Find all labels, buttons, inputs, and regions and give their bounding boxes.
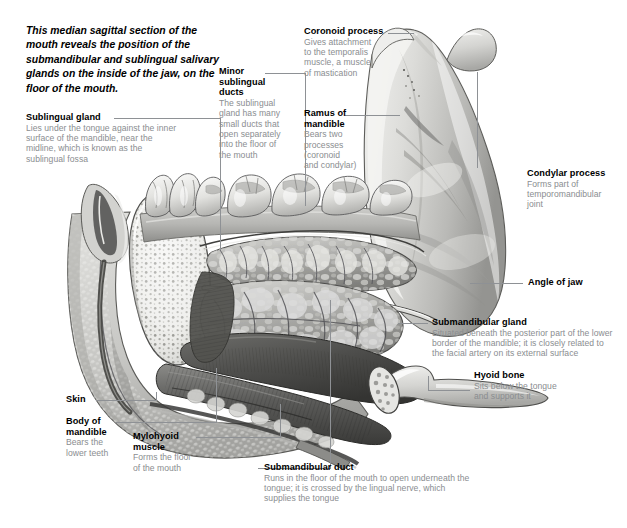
label-mylohyoid-muscle: Mylohyoid muscle Forms the floor of the … [133, 431, 205, 473]
label-heading-submandibular-gland: Submandibular gland [432, 317, 626, 328]
label-heading-hyoid-bone: Hyoid bone [474, 370, 614, 381]
label-heading-angle-of-jaw: Angle of jaw [528, 277, 624, 288]
label-body-minor-sublingual-ducts: The sublingual gland has many small duct… [219, 98, 287, 160]
label-ramus-of-mandible: Ramus of mandible Bears two processes (c… [304, 108, 366, 171]
anatomical-figure: This median sagittal section of the mout… [0, 0, 627, 528]
label-minor-sublingual-ducts: Minor sublingual ducts The sublingual gl… [219, 66, 287, 160]
label-body-of-mandible: Body of mandible Bears the lower teeth [66, 416, 122, 458]
label-body-mylohyoid-muscle: Forms the floor of the mouth [133, 452, 205, 473]
label-body-body-of-mandible: Bears the lower teeth [66, 437, 122, 458]
label-body-sublingual-gland: Lies under the tongue against the inner … [26, 123, 212, 165]
label-heading-body-of-mandible: Body of mandible [66, 416, 122, 437]
label-hyoid-bone: Hyoid bone Sits below the tongue and sup… [474, 370, 614, 401]
label-body-coronoid-process: Gives attachment to the temporalis muscl… [304, 37, 388, 79]
label-submandibular-gland: Submandibular gland Situated beneath the… [432, 317, 626, 359]
label-skin: Skin [66, 394, 116, 405]
label-heading-minor-sublingual-ducts: Minor sublingual ducts [219, 66, 287, 98]
label-submandibular-duct: Submandibular duct Runs in the floor of … [264, 462, 524, 504]
label-sublingual-gland: Sublingual gland Lies under the tongue a… [26, 112, 212, 164]
intro-caption: This median sagittal section of the mout… [26, 24, 222, 96]
label-body-submandibular-duct: Runs in the floor of the mouth to open u… [264, 473, 524, 504]
label-heading-coronoid-process: Coronoid process [304, 26, 388, 37]
label-heading-ramus-of-mandible: Ramus of mandible [304, 108, 366, 129]
label-heading-skin: Skin [66, 394, 116, 405]
label-body-hyoid-bone: Sits below the tongue and supports it [474, 381, 614, 402]
label-condylar-process: Condylar process Forms part of temporoma… [527, 168, 625, 210]
label-heading-sublingual-gland: Sublingual gland [26, 112, 212, 123]
label-coronoid-process: Coronoid process Gives attachment to the… [304, 26, 388, 78]
label-body-condylar-process: Forms part of temporomandibular joint [527, 179, 625, 210]
label-body-submandibular-gland: Situated beneath the posterior part of t… [432, 328, 626, 359]
label-body-ramus-of-mandible: Bears two processes (coronoid and condyl… [304, 129, 366, 171]
label-heading-condylar-process: Condylar process [527, 168, 625, 179]
label-angle-of-jaw: Angle of jaw [528, 277, 624, 288]
label-heading-mylohyoid-muscle: Mylohyoid muscle [133, 431, 205, 452]
label-heading-submandibular-duct: Submandibular duct [264, 462, 524, 473]
